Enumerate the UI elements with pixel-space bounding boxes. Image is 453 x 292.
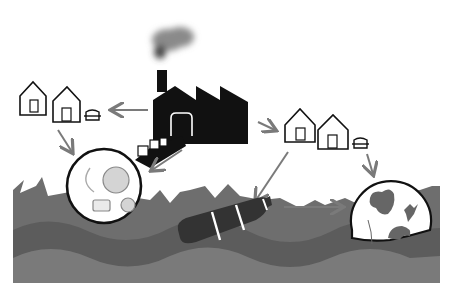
factory-icon <box>135 70 248 168</box>
car-icon <box>84 110 101 120</box>
arrow-houses-right-to-bottle <box>256 152 288 200</box>
arrow-houses-left-to-microplastics <box>58 130 72 152</box>
smoke-icon <box>152 27 194 59</box>
arrow-factory-to-houses-right <box>258 122 275 130</box>
magnified-microplastics-icon <box>67 149 141 223</box>
houses-left <box>20 82 101 122</box>
houses-right <box>285 109 369 149</box>
arrow-houses-right-to-globe <box>367 154 373 174</box>
pollution-diagram <box>0 0 453 292</box>
car-icon <box>352 138 369 148</box>
